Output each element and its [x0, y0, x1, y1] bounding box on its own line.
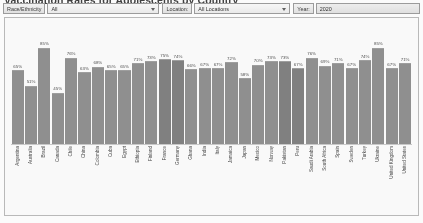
bar[interactable] [65, 58, 77, 144]
bar-value-label: 73% [267, 56, 276, 60]
bar-item[interactable]: 72% [225, 22, 237, 144]
race-ethnicity-select[interactable]: All [47, 3, 159, 14]
x-tick-label: Spain [336, 146, 341, 158]
x-tick-label: United Kingdom [389, 146, 394, 179]
bar-item[interactable]: 71% [132, 22, 144, 144]
bar-item[interactable]: 71% [399, 22, 411, 144]
x-tick-label: India [202, 146, 207, 156]
bar-item[interactable]: 73% [279, 22, 291, 144]
bar-value-label: 63% [80, 67, 89, 71]
bar[interactable] [265, 61, 277, 144]
x-tick-label: Finland [149, 146, 154, 161]
bar[interactable] [105, 70, 117, 144]
x-tick: Pakistan [279, 146, 291, 208]
bar[interactable] [359, 60, 371, 144]
bar[interactable] [319, 66, 331, 144]
x-tick-label: Chile [69, 146, 74, 156]
x-tick-label: United States [403, 146, 408, 174]
bar-item[interactable]: 74% [359, 22, 371, 144]
bar[interactable] [279, 61, 291, 144]
bar-value-label: 71% [134, 58, 143, 62]
bar-item[interactable]: 67% [199, 22, 211, 144]
x-tick: India [199, 146, 211, 208]
bar-item[interactable]: 75% [159, 22, 171, 144]
bar-item[interactable]: 67% [386, 22, 398, 144]
bar-item[interactable]: 85% [38, 22, 50, 144]
x-tick-label: Sweden [349, 146, 354, 163]
bar[interactable] [292, 68, 304, 144]
bar-item[interactable]: 45% [52, 22, 64, 144]
bar[interactable] [185, 69, 197, 144]
bar[interactable] [118, 70, 130, 144]
bar[interactable] [92, 67, 104, 144]
location-select[interactable]: All Locations [194, 3, 290, 14]
bar[interactable] [12, 70, 24, 144]
x-tick-label: Peru [296, 146, 301, 156]
bar[interactable] [386, 68, 398, 144]
bar-item[interactable]: 70% [252, 22, 264, 144]
x-tick-label: Canada [55, 146, 60, 162]
bar-value-label: 74% [361, 55, 370, 59]
bar[interactable] [25, 86, 37, 144]
x-tick: Ukraine [372, 146, 384, 208]
x-tick: Norway [265, 146, 277, 208]
bar-value-label: 68% [93, 61, 102, 65]
bar-item[interactable]: 71% [332, 22, 344, 144]
bar-item[interactable]: 65% [118, 22, 130, 144]
location-value: All Locations [198, 6, 229, 12]
bar[interactable] [332, 63, 344, 144]
bar[interactable] [225, 62, 237, 144]
bar-item[interactable]: 67% [292, 22, 304, 144]
bar[interactable] [252, 65, 264, 144]
bar[interactable] [372, 48, 384, 144]
bar-value-label: 67% [347, 63, 356, 67]
bar-item[interactable]: 63% [78, 22, 90, 144]
bar-item[interactable]: 66% [185, 22, 197, 144]
bar[interactable] [239, 78, 251, 144]
bar[interactable] [399, 63, 411, 144]
x-tick: South Africa [319, 146, 331, 208]
bar-item[interactable]: 67% [212, 22, 224, 144]
bar-item[interactable]: 67% [346, 22, 358, 144]
year-input[interactable]: 2020 [316, 3, 420, 14]
location-label: Location: [162, 3, 192, 14]
bar[interactable] [38, 48, 50, 144]
bar-item[interactable]: 76% [65, 22, 77, 144]
bar-chart: 65%51%85%45%76%63%68%65%65%71%73%75%74%6… [11, 22, 412, 215]
bar-item[interactable]: 65% [105, 22, 117, 144]
bar[interactable] [78, 72, 90, 144]
bar-item[interactable]: 51% [25, 22, 37, 144]
x-tick-label: France [162, 146, 167, 160]
bar-item[interactable]: 69% [319, 22, 331, 144]
bar-item[interactable]: 58% [239, 22, 251, 144]
x-tick-label: China [82, 146, 87, 158]
chevron-down-icon [282, 8, 286, 11]
x-tick: Jamaica [225, 146, 237, 208]
bar-item[interactable]: 76% [306, 22, 318, 144]
bar[interactable] [145, 61, 157, 144]
race-ethnicity-label: Race/Ethnicity [3, 3, 45, 14]
bar[interactable] [199, 68, 211, 144]
x-tick: United States [399, 146, 411, 208]
bar[interactable] [306, 58, 318, 144]
bar[interactable] [346, 68, 358, 144]
bar[interactable] [172, 60, 184, 144]
bar-value-label: 65% [107, 65, 116, 69]
bar[interactable] [52, 93, 64, 144]
bar-item[interactable]: 73% [145, 22, 157, 144]
bar-item[interactable]: 85% [372, 22, 384, 144]
bar[interactable] [132, 63, 144, 144]
bar[interactable] [212, 68, 224, 144]
chevron-down-icon [151, 8, 155, 11]
bar[interactable] [159, 59, 171, 144]
bar-item[interactable]: 73% [265, 22, 277, 144]
x-tick: Ghana [185, 146, 197, 208]
bar-item[interactable]: 65% [12, 22, 24, 144]
x-tick: Colombia [92, 146, 104, 208]
x-tick-label: Jamaica [229, 146, 234, 163]
x-tick-label: Brazil [42, 146, 47, 158]
bar-item[interactable]: 74% [172, 22, 184, 144]
bar-value-label: 69% [321, 60, 330, 64]
bar-item[interactable]: 68% [92, 22, 104, 144]
x-tick-label: Norway [269, 146, 274, 162]
